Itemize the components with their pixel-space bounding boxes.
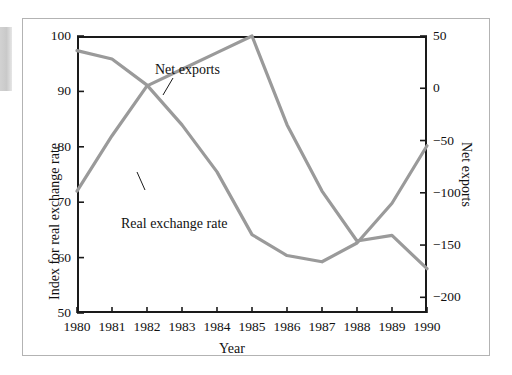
left-tick-90: 90 [25, 85, 71, 99]
y-axis-left-title: Index for real exchange rate [47, 143, 63, 300]
left-tick-50: 50 [25, 306, 71, 320]
x-tick-1981: 1981 [99, 320, 126, 334]
y-axis-right-title: Net exports [458, 142, 474, 207]
x-tick-1983: 1983 [169, 320, 196, 334]
x-tick-1989: 1989 [379, 320, 406, 334]
x-tick-1985: 1985 [239, 320, 266, 334]
x-tick-1987: 1987 [309, 320, 336, 334]
right-tick--100: −100 [433, 186, 461, 200]
x-tick-1986: 1986 [274, 320, 301, 334]
x-tick-1982: 1982 [134, 320, 161, 334]
x-tick-1984: 1984 [204, 320, 231, 334]
right-tick--150: −150 [433, 238, 461, 252]
x-tick-1990: 1990 [414, 320, 441, 334]
x-axis-title: Year [219, 341, 245, 357]
plot-area [77, 36, 427, 313]
x-tick-1988: 1988 [344, 320, 371, 334]
left-tick-100: 100 [25, 29, 71, 43]
right-tick--200: −200 [433, 291, 461, 305]
right-tick--50: −50 [433, 134, 454, 148]
series-label-real-exchange-rate: Real exchange rate [121, 216, 228, 232]
x-tick-1980: 1980 [64, 320, 91, 334]
page-edge-strip [0, 27, 12, 91]
right-tick-50: 50 [433, 29, 447, 43]
series-label-net-exports: Net exports [155, 62, 220, 78]
right-tick-0: 0 [433, 82, 440, 96]
